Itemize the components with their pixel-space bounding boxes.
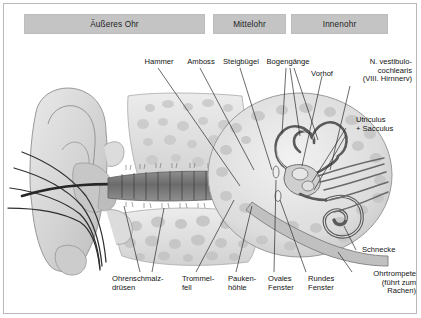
label-round-window: Rundes Fenster [308, 275, 356, 292]
ear-anatomy-figure: Äußeres Ohr Mittelohr Innenohr [0, 0, 421, 318]
oval-window [273, 166, 279, 178]
label-cerumen-glands: Ohrenschmalz- drüsen [112, 275, 182, 292]
label-bogengaenge: Bogengänge [258, 58, 318, 67]
label-vestibulocochlear-nerve: N. vestibulo- cochlearis (VIII. Hirnnerv… [316, 58, 412, 84]
label-eardrum: Trommel- fell [182, 275, 226, 292]
label-schnecke: Schnecke [362, 246, 420, 255]
label-utriculus-sacculus: Utriculus + Sacculus [356, 116, 420, 133]
